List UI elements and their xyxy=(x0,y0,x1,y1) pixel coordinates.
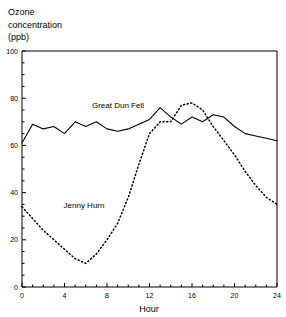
series-line-1 xyxy=(22,108,277,143)
x-axis-tick-labels: 04812162024 xyxy=(20,292,281,299)
x-tick-label: 24 xyxy=(273,292,281,299)
axis-lines xyxy=(22,51,277,287)
series-label-jenny-hurn: Jenny Hurn xyxy=(64,201,105,210)
series-annotations: Great Dun FellJenny Hurn xyxy=(64,101,145,210)
y-tick-label: 0 xyxy=(14,284,18,291)
x-tick-label: 4 xyxy=(63,292,67,299)
y-tick-label: 20 xyxy=(10,236,18,243)
y-tick-label: 100 xyxy=(6,48,18,55)
y-tick-label: 40 xyxy=(10,189,18,196)
data-series xyxy=(22,103,277,263)
x-tick-label: 20 xyxy=(231,292,239,299)
x-axis-title: Hour xyxy=(139,304,159,314)
x-tick-label: 12 xyxy=(146,292,154,299)
x-tick-label: 16 xyxy=(188,292,196,299)
x-tick-label: 0 xyxy=(20,292,24,299)
plot-canvas: 020406080100 04812162024 Great Dun FellJ… xyxy=(0,0,286,317)
x-tick-label: 8 xyxy=(105,292,109,299)
ozone-concentration-chart: Ozone concentration (ppb) 020406080100 0… xyxy=(0,0,286,317)
y-tick-label: 80 xyxy=(10,95,18,102)
series-line-2 xyxy=(22,103,277,263)
x-axis-ticks xyxy=(22,283,277,287)
y-axis-ticks xyxy=(22,51,26,287)
y-axis-tick-labels: 020406080100 xyxy=(6,48,18,291)
series-label-great-dun-fell: Great Dun Fell xyxy=(92,101,144,110)
axis-frame xyxy=(22,51,277,287)
y-tick-label: 60 xyxy=(10,142,18,149)
